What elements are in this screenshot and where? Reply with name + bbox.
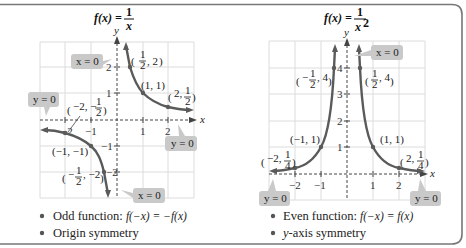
- svg-text:−1: −1: [314, 179, 326, 191]
- svg-text:x = 0: x = 0: [376, 46, 399, 58]
- svg-text:−2, −: −2, −: [73, 100, 96, 112]
- point-label: (−1, −1): [52, 145, 89, 158]
- svg-text:, 4: , 4: [317, 71, 329, 83]
- svg-text:2,: 2,: [174, 87, 183, 99]
- property-list: Odd function: f(−x) = −f(x) Origin symme…: [40, 209, 187, 240]
- svg-text:2: 2: [363, 16, 369, 30]
- svg-text:2: 2: [396, 179, 402, 191]
- svg-text:f(x) =: f(x) =: [94, 11, 122, 25]
- svg-text:2,: 2,: [406, 152, 415, 164]
- svg-text:−: −: [68, 168, 74, 180]
- svg-text:x: x: [429, 167, 435, 179]
- svg-text:x: x: [125, 19, 132, 33]
- point-label: (1, 1): [141, 79, 165, 92]
- svg-text:): ): [103, 104, 107, 117]
- svg-text:): ): [425, 156, 429, 169]
- svg-text:(: (: [67, 104, 71, 117]
- point-label: ( − 1 2 , 4 ): [296, 67, 332, 90]
- figure: f(x) = 1 x x y: [0, 0, 466, 248]
- svg-text:x = 0: x = 0: [138, 189, 161, 201]
- svg-text:−2: −2: [289, 179, 301, 191]
- svg-text:, −2: , −2: [83, 168, 100, 180]
- point-label: (1, 1): [380, 133, 404, 146]
- svg-text:1: 1: [140, 125, 146, 137]
- svg-text:2: 2: [96, 106, 102, 118]
- svg-text:−2,: −2,: [267, 152, 282, 164]
- y-axis-arrow-icon: [344, 38, 350, 46]
- svg-text:f(x) =: f(x) =: [324, 11, 352, 25]
- svg-text:2: 2: [337, 115, 343, 127]
- svg-text:y: y: [343, 26, 349, 38]
- svg-text:4: 4: [337, 62, 343, 74]
- svg-text:2: 2: [106, 61, 112, 73]
- svg-text:y = 0: y = 0: [415, 192, 438, 204]
- curve-branch-positive: [126, 46, 190, 110]
- x-axis-arrow-icon: [189, 117, 197, 123]
- svg-text:(: (: [296, 75, 300, 88]
- svg-text:(: (: [131, 55, 135, 68]
- svg-text:(: (: [261, 156, 265, 169]
- svg-text:, 2: , 2: [147, 55, 158, 67]
- y-axis-arrow-icon: [114, 36, 120, 44]
- svg-text:(: (: [365, 75, 369, 88]
- point-label: ( −2, 1 4 ): [261, 148, 296, 171]
- svg-text:2: 2: [165, 125, 171, 137]
- svg-text:(: (: [62, 172, 66, 185]
- property-list: Even function: f(−x) = f(x) y-axis symme…: [271, 209, 414, 240]
- svg-text:(: (: [400, 156, 404, 169]
- svg-text:Even function: f(−x) = f(x): Even function: f(−x) = f(x): [283, 209, 413, 223]
- svg-text:−2: −2: [106, 166, 118, 178]
- svg-text:x: x: [354, 20, 361, 34]
- svg-text:): ): [328, 75, 332, 88]
- svg-text:Origin symmetry: Origin symmetry: [53, 226, 140, 240]
- svg-text:4: 4: [285, 159, 291, 171]
- svg-text:): ): [292, 156, 296, 169]
- svg-text:−1: −1: [101, 140, 113, 152]
- svg-text:2: 2: [372, 78, 378, 90]
- asymptote-callout-y0: y = 0: [28, 92, 59, 116]
- asymptote-callout-y0: y = 0: [259, 179, 290, 206]
- svg-text:2: 2: [310, 78, 316, 90]
- svg-text:): ): [159, 55, 163, 68]
- svg-text:1: 1: [370, 179, 376, 191]
- svg-text:Odd function: f(−x) = −f(x): Odd function: f(−x) = −f(x): [53, 209, 187, 223]
- svg-text:1: 1: [126, 5, 132, 19]
- svg-text:−: −: [302, 71, 308, 83]
- svg-text:x = 0: x = 0: [76, 55, 99, 67]
- svg-text:3: 3: [337, 88, 343, 100]
- point-label: ( 1 2 , 4 ): [365, 67, 394, 90]
- svg-text:(: (: [168, 91, 172, 104]
- svg-text:y = 0: y = 0: [264, 192, 287, 204]
- svg-text:, 4: , 4: [379, 71, 391, 83]
- svg-text:): ): [192, 91, 196, 104]
- curve-branch-left: [273, 48, 335, 171]
- svg-text:x: x: [199, 113, 205, 125]
- svg-text:y = 0: y = 0: [171, 137, 194, 149]
- svg-text:2: 2: [185, 95, 191, 107]
- svg-text:−1: −1: [85, 125, 97, 137]
- svg-text:y-axis symmetry: y-axis symmetry: [281, 226, 367, 240]
- point-label: ( 1 2 , 2 ): [131, 48, 163, 71]
- asymptote-callout-x0: x = 0: [121, 188, 165, 203]
- point-label: (−1, 1): [290, 133, 320, 146]
- svg-text:4: 4: [418, 159, 424, 171]
- point-label: ( 2, 1 2 ): [168, 84, 196, 107]
- svg-text:1: 1: [106, 87, 112, 99]
- svg-text:1: 1: [337, 141, 343, 153]
- asymptote-callout-x0: x = 0: [354, 45, 403, 60]
- svg-text:): ): [390, 75, 394, 88]
- svg-text:): ): [100, 172, 104, 185]
- panel-reciprocal: f(x) = 1 x x y: [28, 5, 205, 240]
- svg-text:y: y: [113, 24, 119, 36]
- svg-text:2: 2: [76, 175, 82, 187]
- svg-text:y = 0: y = 0: [33, 93, 56, 105]
- svg-text:2: 2: [140, 59, 146, 71]
- panel-reciprocal-squared: f(x) = 1 x 2 x y: [259, 5, 441, 240]
- point-label: ( − 1 2 , −2 ): [62, 164, 104, 187]
